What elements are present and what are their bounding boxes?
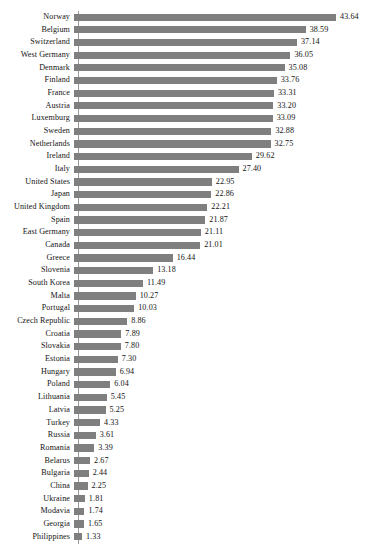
bar-value-label: 33.76 <box>281 74 300 87</box>
bar-row: Greece16.44 <box>0 252 391 265</box>
bar-track: 32.88 <box>74 125 391 138</box>
bar-row: China2.25 <box>0 480 391 493</box>
bar <box>74 204 207 211</box>
bar <box>74 254 173 261</box>
bar-track: 3.39 <box>74 442 391 455</box>
bar-value-label: 11.49 <box>147 277 165 290</box>
bar-value-label: 10.03 <box>138 302 157 315</box>
category-label: Philippines <box>0 531 74 544</box>
category-label: Ukraine <box>0 493 74 506</box>
bar <box>74 394 107 401</box>
bar-row: South Korea11.49 <box>0 277 391 290</box>
bar-row: Modavia1.74 <box>0 505 391 518</box>
bar-track: 1.81 <box>74 493 391 506</box>
bar-track: 35.08 <box>74 62 391 75</box>
bar <box>74 292 136 299</box>
bar-row: Czech Republic8.86 <box>0 315 391 328</box>
bar-track: 37.14 <box>74 36 391 49</box>
bar-value-label: 22.95 <box>216 176 235 189</box>
category-label: Russia <box>0 429 74 442</box>
category-label: Ireland <box>0 150 74 163</box>
bar-value-label: 29.62 <box>256 150 275 163</box>
category-label: Finland <box>0 74 74 87</box>
bar-track: 21.11 <box>74 226 391 239</box>
category-label: Sweden <box>0 125 74 138</box>
bar-value-label: 4.33 <box>104 417 119 430</box>
bar <box>74 508 84 515</box>
category-label: Luxemburg <box>0 112 74 125</box>
category-label: Turkey <box>0 417 74 430</box>
bar-row: West Germany36.05 <box>0 49 391 62</box>
bar-track: 7.80 <box>74 340 391 353</box>
bar <box>74 432 96 439</box>
category-label: Czech Republic <box>0 315 74 328</box>
bar <box>74 406 106 413</box>
bar-row: Belgium38.59 <box>0 24 391 37</box>
bar <box>74 318 127 325</box>
bar-track: 7.89 <box>74 328 391 341</box>
bar <box>74 166 239 173</box>
bar <box>74 216 205 223</box>
bar-row: Ireland29.62 <box>0 150 391 163</box>
bar-row: Sweden32.88 <box>0 125 391 138</box>
bar-value-label: 1.74 <box>88 505 103 518</box>
category-label: West Germany <box>0 49 74 62</box>
bar <box>74 330 121 337</box>
bar-track: 1.65 <box>74 518 391 531</box>
bar-track: 10.27 <box>74 290 391 303</box>
category-label: Latvia <box>0 404 74 417</box>
bar <box>74 444 94 451</box>
bar-row: Bulgaria2.44 <box>0 467 391 480</box>
bar <box>74 470 89 477</box>
bar <box>74 153 252 160</box>
bar <box>74 457 90 464</box>
bar-track: 21.87 <box>74 214 391 227</box>
bar-value-label: 32.75 <box>275 138 294 151</box>
bar-value-label: 6.94 <box>120 366 135 379</box>
category-label: Georgia <box>0 518 74 531</box>
bar-row: Hungary6.94 <box>0 366 391 379</box>
bar-value-label: 13.18 <box>157 264 176 277</box>
category-label: Italy <box>0 163 74 176</box>
category-label: Poland <box>0 378 74 391</box>
bar-row: Luxemburg33.09 <box>0 112 391 125</box>
category-label: Romania <box>0 442 74 455</box>
bar <box>74 368 116 375</box>
bar <box>74 482 88 489</box>
bar-track: 8.86 <box>74 315 391 328</box>
bar-track: 6.94 <box>74 366 391 379</box>
bar <box>74 229 201 236</box>
bar <box>74 381 110 388</box>
bar-value-label: 6.04 <box>114 378 129 391</box>
bar <box>74 14 336 21</box>
bar-row: Spain21.87 <box>0 214 391 227</box>
bar-track: 27.40 <box>74 163 391 176</box>
category-label: Spain <box>0 214 74 227</box>
category-label: Modavia <box>0 505 74 518</box>
category-label: Hungary <box>0 366 74 379</box>
bar <box>74 52 290 59</box>
bar-row: Croatia7.89 <box>0 328 391 341</box>
category-label: Malta <box>0 290 74 303</box>
category-label: Lithuania <box>0 391 74 404</box>
bar <box>74 356 118 363</box>
bar-track: 38.59 <box>74 24 391 37</box>
bar-value-label: 27.40 <box>243 163 262 176</box>
bar-track: 16.44 <box>74 252 391 265</box>
bar-row: East Germany21.11 <box>0 226 391 239</box>
bar <box>74 242 200 249</box>
bar-track: 33.31 <box>74 87 391 100</box>
category-label: United States <box>0 176 74 189</box>
bar-value-label: 2.44 <box>93 467 108 480</box>
bar-track: 2.25 <box>74 480 391 493</box>
bar-row: Philippines1.33 <box>0 531 391 544</box>
bar-value-label: 43.64 <box>340 11 359 24</box>
category-label: Switzerland <box>0 36 74 49</box>
bar-value-label: 21.11 <box>205 226 223 239</box>
category-label: Portugal <box>0 302 74 315</box>
bar <box>74 343 121 350</box>
bar-row: Slovakia7.80 <box>0 340 391 353</box>
category-label: Slovenia <box>0 264 74 277</box>
bar-track: 21.01 <box>74 239 391 252</box>
